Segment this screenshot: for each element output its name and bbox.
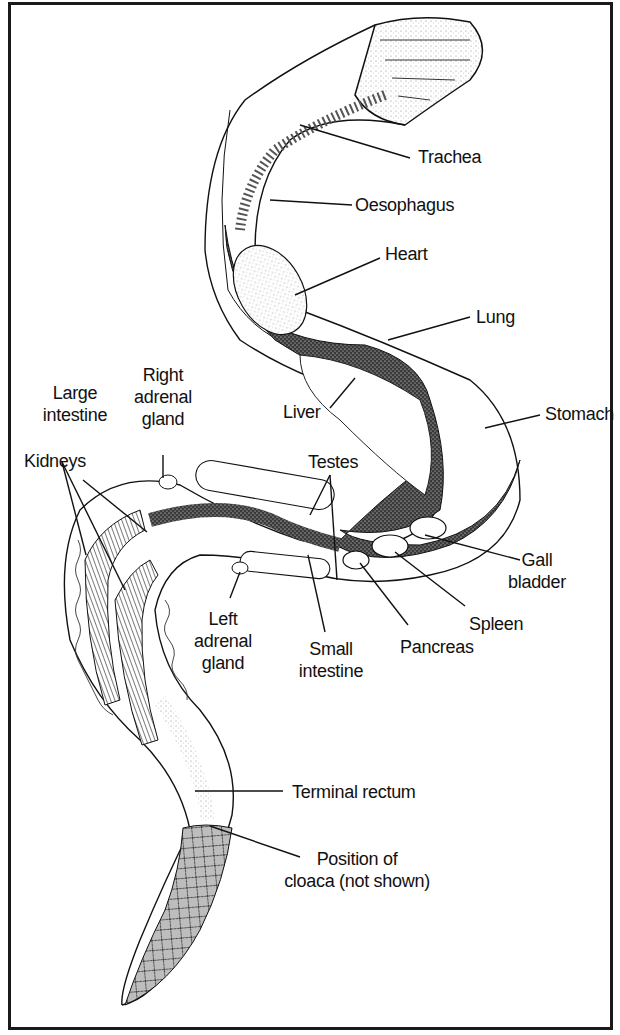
label-pancreas: Pancreas bbox=[400, 636, 474, 658]
label-small-intestine: Small intestine bbox=[299, 638, 363, 682]
label-trachea: Trachea bbox=[418, 146, 481, 168]
label-testes: Testes bbox=[308, 451, 358, 473]
label-liver: Liver bbox=[283, 401, 321, 423]
label-cloaca-position: Position of cloaca (not shown) bbox=[284, 848, 430, 892]
label-gall-bladder: Gall bladder bbox=[508, 549, 566, 593]
label-kidneys: Kidneys bbox=[24, 450, 86, 472]
label-left-adrenal-gland: Left adrenal gland bbox=[194, 608, 252, 674]
label-spleen: Spleen bbox=[469, 613, 523, 635]
label-large-intestine: Large intestine bbox=[43, 382, 107, 426]
label-lung: Lung bbox=[476, 306, 515, 328]
kidneys bbox=[85, 510, 158, 745]
small-intestine bbox=[150, 510, 340, 545]
head bbox=[355, 18, 483, 125]
label-terminal-rectum: Terminal rectum bbox=[292, 781, 416, 803]
label-right-adrenal-gland: Right adrenal gland bbox=[134, 364, 192, 430]
label-oesophagus: Oesophagus bbox=[355, 194, 454, 216]
label-heart: Heart bbox=[385, 243, 428, 265]
label-stomach: Stomach bbox=[545, 403, 614, 425]
terminal-rectum bbox=[160, 700, 208, 820]
